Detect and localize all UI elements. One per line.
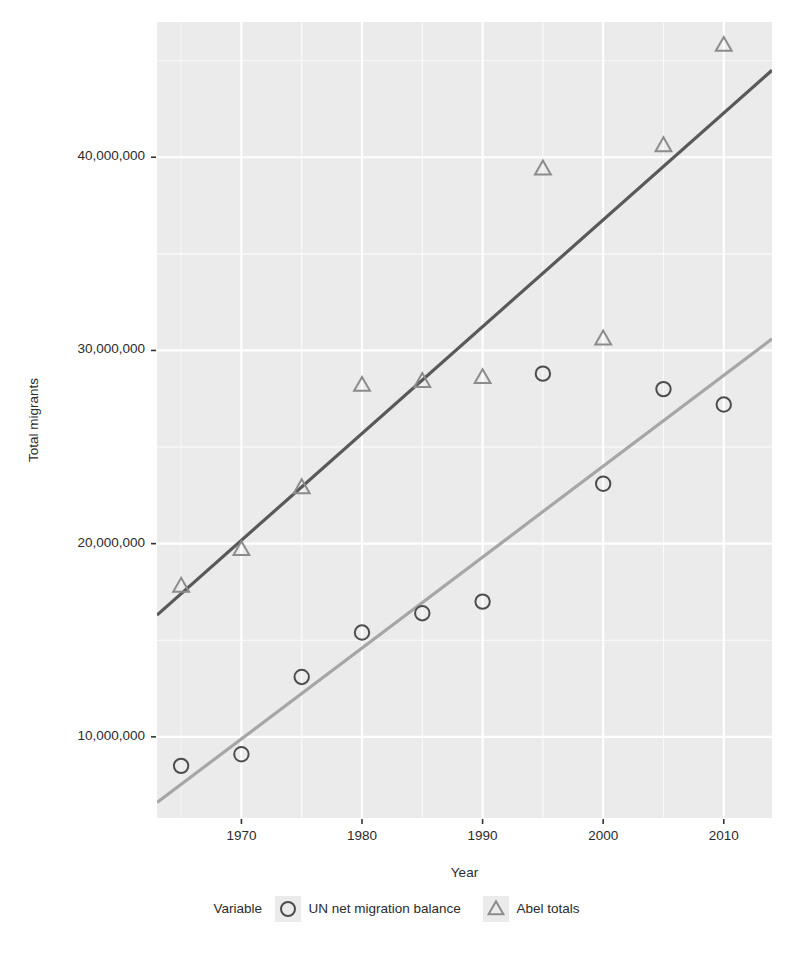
x-axis-tick-label: 2010 [679,828,769,843]
plot-panel-background [157,22,772,818]
legend-label[interactable]: Abel totals [517,901,580,916]
y-axis-title: Total migrants [26,378,41,462]
x-axis-tick-label: 1990 [438,828,528,843]
legend-marker-icon [275,896,301,922]
circle-icon [281,902,295,916]
y-axis-tick-label: 40,000,000 [30,148,145,163]
scatter-chart: 10,000,00020,000,00030,000,00040,000,000… [0,0,793,954]
y-axis-tick-label: 10,000,000 [30,728,145,743]
triangle-icon [488,901,503,914]
y-axis-tick-label: 20,000,000 [30,535,145,550]
legend-marker-icon [483,896,509,922]
x-axis-title: Year [157,865,772,880]
x-axis-tick-label: 2000 [558,828,648,843]
plot-canvas [0,0,793,954]
x-axis-tick-label: 1980 [317,828,407,843]
legend-title: Variable [214,901,263,916]
y-axis-tick-label: 30,000,000 [30,341,145,356]
x-axis-tick-label: 1970 [196,828,286,843]
legend-label[interactable]: UN net migration balance [309,901,461,916]
